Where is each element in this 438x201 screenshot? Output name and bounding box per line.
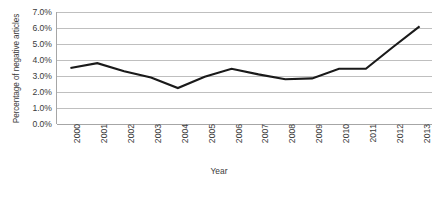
line-series [57, 12, 433, 124]
y-axis-tick-labels: 0.0%1.0%2.0%3.0%4.0%5.0%6.0%7.0% [16, 12, 52, 124]
y-tick-label: 7.0% [16, 8, 52, 17]
chart-figure: Percentage of negative articles 0.0%1.0%… [0, 0, 438, 201]
x-tick-label: 2009 [315, 124, 324, 143]
x-tick-label: 2003 [154, 124, 163, 143]
x-tick-label: 2011 [369, 124, 378, 142]
y-tick-label: 4.0% [16, 56, 52, 65]
y-tick-label: 0.0% [16, 120, 52, 129]
y-tick-label: 6.0% [16, 24, 52, 33]
x-tick-label: 2012 [396, 124, 405, 143]
y-tick-label: 1.0% [16, 104, 52, 113]
x-axis-title: Year [0, 166, 438, 176]
y-tick-label: 3.0% [16, 72, 52, 81]
x-tick-label: 2010 [342, 124, 351, 143]
y-tick-label: 5.0% [16, 40, 52, 49]
x-tick-label: 2013 [423, 124, 432, 143]
y-tick-label: 2.0% [16, 88, 52, 97]
x-tick-label: 2008 [288, 124, 297, 143]
x-axis-tick-labels: 2000200120022003200420052006200720082009… [56, 124, 432, 160]
x-tick-label: 2002 [127, 124, 136, 143]
x-tick-label: 2000 [73, 124, 82, 143]
x-tick-label: 2004 [181, 124, 190, 143]
series-polyline [70, 26, 419, 88]
x-tick-label: 2005 [208, 124, 217, 143]
x-tick-label: 2001 [100, 124, 109, 143]
plot-area [56, 12, 432, 124]
x-tick-label: 2006 [235, 124, 244, 143]
x-tick-label: 2007 [261, 124, 270, 143]
